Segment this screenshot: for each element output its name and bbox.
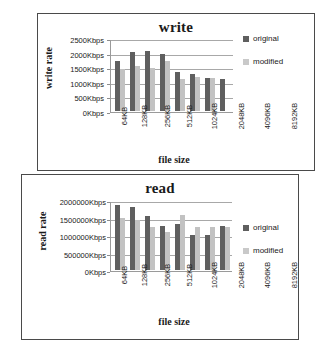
bar-modified: [225, 227, 230, 270]
legend-write: originalmodified: [243, 34, 283, 80]
bar-group: [142, 40, 157, 111]
bar-group: [188, 40, 203, 111]
y-axis-tick-mark: [107, 113, 110, 114]
x-axis-tick-label: 512KB: [186, 264, 195, 287]
x-axis-label-cell: 128KB: [129, 114, 152, 125]
bar-group: [203, 40, 218, 111]
bar-modified: [195, 227, 200, 270]
bar-group: [173, 40, 188, 111]
bar-group: [187, 202, 202, 270]
bar-modified: [120, 69, 125, 111]
bar-modified: [150, 227, 155, 270]
chart-panel-write: write write rate 0Kbps500Kbps1000Kbps150…: [37, 13, 315, 171]
legend-item: original: [243, 34, 283, 43]
x-axis-tick-label: 256KB: [163, 264, 172, 287]
bar-modified: [120, 218, 125, 271]
y-axis-tick-mark: [107, 40, 110, 41]
x-axis-label-cell: 8192KB: [277, 114, 304, 125]
chart-title-read: read: [22, 180, 298, 197]
bar-group-container-read: [112, 202, 232, 270]
chart-panel-read: read read rate 0Kbps500000Kbps1000000Kbp…: [21, 174, 299, 340]
y-axis-tick-label: 500000Kbps: [28, 250, 106, 259]
x-axis-tick-label: 128KB: [141, 264, 150, 287]
x-axis-label-cell: 1024KB: [197, 114, 224, 125]
legend-swatch-original: [243, 225, 249, 231]
legend-swatch-modified: [243, 248, 249, 254]
bar-group: [127, 202, 142, 270]
y-axis-tick-mark: [107, 255, 110, 256]
x-axis-label-cell: 8192KB: [277, 273, 304, 284]
x-axis-label-cell: 64KB: [111, 114, 129, 125]
legend-label: modified: [253, 57, 283, 66]
x-axis-label-cell: 512KB: [174, 114, 197, 125]
bar-group: [157, 40, 172, 111]
x-axis-tick-label: 512KB: [186, 105, 195, 128]
x-axis-label-cell: 4096KB: [250, 273, 277, 284]
legend-read: originalmodified: [243, 223, 283, 269]
legend-swatch-modified: [243, 59, 249, 65]
x-axis-label-cell: 64KB: [111, 273, 129, 284]
legend-item: modified: [243, 57, 283, 66]
x-axis-label-cell: 2048KB: [224, 114, 251, 125]
y-axis-tick-mark: [107, 84, 110, 85]
y-axis-tick-label: 2000Kbps: [40, 50, 104, 59]
x-axis-tick-label: 8192KB: [290, 262, 299, 289]
x-axis-tick-label: 2048KB: [237, 103, 246, 130]
legend-label: original: [253, 223, 279, 232]
bar-modified: [180, 215, 185, 270]
y-axis-tick-label: 1000Kbps: [40, 79, 104, 88]
legend-label: original: [253, 34, 279, 43]
y-axis-tick-label: 0Kbps: [40, 109, 104, 118]
bar-modified: [165, 61, 170, 111]
bar-group: [218, 40, 233, 111]
x-axis-tick-label: 64KB: [120, 266, 129, 284]
y-axis-tick-mark: [107, 220, 110, 221]
bar-group: [172, 202, 187, 270]
x-axis-label-cell: 512KB: [174, 273, 197, 284]
y-axis-tick-mark: [107, 272, 110, 273]
y-axis-tick-mark: [107, 202, 110, 203]
legend-item: modified: [243, 246, 283, 255]
y-axis-tick-label: 1000000Kbps: [28, 233, 106, 242]
bar-group: [157, 202, 172, 270]
y-axis-tick-label: 1500Kbps: [40, 65, 104, 74]
x-axis-label-cell: 128KB: [129, 273, 152, 284]
legend-item: original: [243, 223, 283, 232]
y-axis-tick-label: 2500Kbps: [40, 36, 104, 45]
y-axis-tick-label: 0Kbps: [28, 268, 106, 277]
x-axis-labels-write: 64KB128KB256KB512KB1024KB2048KB4096KB819…: [111, 114, 233, 125]
legend-swatch-original: [243, 36, 249, 42]
bar-group-container-write: [112, 40, 233, 111]
x-axis-tick-label: 1024KB: [210, 103, 219, 130]
y-axis-tick-label: 2000000Kbps: [28, 198, 106, 207]
bar-group: [202, 202, 217, 270]
x-axis-tick-label: 128KB: [141, 105, 150, 128]
y-axis-tick-mark: [107, 55, 110, 56]
bar-modified: [135, 220, 140, 270]
x-axis-label-cell: 2048KB: [224, 273, 251, 284]
bar-group: [217, 202, 232, 270]
x-axis-label-cell: 4096KB: [250, 114, 277, 125]
bar-group: [142, 202, 157, 270]
bar-modified: [150, 68, 155, 111]
bar-group: [112, 202, 127, 270]
x-axis-tick-label: 64KB: [120, 107, 129, 125]
x-axis-title-read: file size: [84, 316, 264, 327]
x-axis-tick-label: 256KB: [163, 105, 172, 128]
bar-modified: [135, 66, 140, 111]
bar-original: [220, 79, 225, 111]
x-axis-title-write: file size: [84, 154, 264, 165]
y-axis-tick-mark: [107, 237, 110, 238]
x-axis-label-cell: 1024KB: [197, 273, 224, 284]
y-axis-tick-label: 500Kbps: [40, 94, 104, 103]
x-axis-labels-read: 64KB128KB256KB512KB1024KB2048KB4096KB819…: [111, 273, 232, 284]
bar-group: [112, 40, 127, 111]
bar-group: [127, 40, 142, 111]
x-axis-tick-label: 1024KB: [210, 262, 219, 289]
y-axis-tick-label: 1500000Kbps: [28, 215, 106, 224]
x-axis-tick-label: 4096KB: [264, 103, 273, 130]
y-axis-tick-mark: [107, 98, 110, 99]
x-axis-tick-label: 8192KB: [290, 103, 299, 130]
bar-modified: [195, 77, 200, 111]
y-axis-tick-mark: [107, 69, 110, 70]
